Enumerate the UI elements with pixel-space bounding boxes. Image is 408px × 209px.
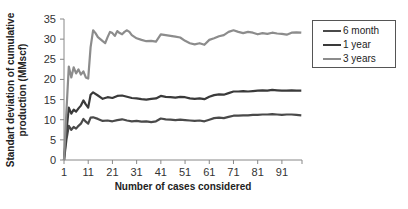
x-tick-label: 41 (155, 166, 167, 178)
y-axis-title-line2: production (MMscf) (17, 44, 28, 137)
y-tick-label: 5 (50, 134, 56, 146)
x-tick-label: 11 (83, 166, 94, 178)
series-lines (64, 30, 301, 160)
x-tick-label: 51 (179, 166, 191, 178)
y-tick-label: 10 (44, 114, 56, 126)
x-tick-label: 1 (61, 166, 67, 178)
y-tick-label: 0 (50, 154, 56, 166)
x-tick-label: 61 (203, 166, 215, 178)
legend-label: 1 year (343, 39, 371, 50)
x-tick-label: 81 (252, 166, 264, 178)
legend-item-6-month: 6 month (323, 25, 379, 36)
series-line-3-years (64, 30, 301, 160)
x-tick-label: 21 (106, 166, 118, 178)
x-axis-title: Number of cases considered (115, 181, 252, 192)
legend-label: 6 month (343, 25, 379, 36)
legend: 6 month 1 year 3 years (312, 20, 396, 68)
series-line-6-month (64, 114, 301, 160)
x-tick-label: 91 (276, 166, 288, 178)
y-tick-label: 20 (44, 73, 56, 85)
legend-label: 3 years (343, 53, 376, 64)
legend-swatch-1-year (323, 44, 341, 46)
legend-swatch-3-years (323, 58, 341, 60)
y-tick-label: 25 (44, 53, 56, 65)
legend-item-1-year: 1 year (323, 39, 371, 50)
x-axis: 1112131415161718191 (61, 160, 302, 178)
x-tick-label: 71 (227, 166, 239, 178)
series-line-1-year (64, 90, 301, 160)
legend-swatch-6-month (323, 30, 341, 32)
y-axis: 05101520253035 (44, 13, 64, 166)
y-axis-title-line1: Standart deviation of cumulative (5, 12, 16, 167)
y-tick-label: 30 (44, 33, 56, 45)
y-tick-label: 15 (44, 94, 56, 106)
legend-item-3-years: 3 years (323, 53, 376, 64)
y-axis-title: Standart deviation of cumulative product… (5, 12, 28, 167)
y-tick-label: 35 (44, 13, 56, 25)
x-tick-label: 31 (131, 166, 143, 178)
